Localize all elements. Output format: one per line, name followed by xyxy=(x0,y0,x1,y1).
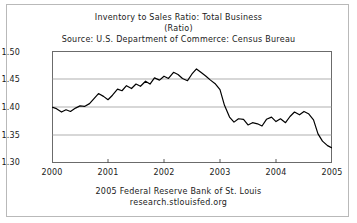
y-tick-label: 1.30 xyxy=(0,158,20,167)
x-tick-label: 2000 xyxy=(35,168,69,177)
y-tick-label: 1.45 xyxy=(0,75,20,84)
x-tick-label: 2003 xyxy=(203,168,237,177)
x-tick-label: 2005 xyxy=(315,168,349,177)
x-tick-label: 2002 xyxy=(147,168,181,177)
chart-source: Source: U.S. Department of Commerce: Cen… xyxy=(7,35,350,44)
footer-url: research.stlouisfed.org xyxy=(7,198,350,207)
series-line xyxy=(52,69,332,148)
chart-canvas xyxy=(52,51,332,163)
x-tick-label: 2001 xyxy=(91,168,125,177)
footer-attribution: 2005 Federal Reserve Bank of St. Louis xyxy=(7,187,350,196)
x-tick-label: 2004 xyxy=(259,168,293,177)
chart-title: Inventory to Sales Ratio: Total Business xyxy=(7,13,350,22)
chart-subtitle: (Ratio) xyxy=(7,24,350,33)
chart-frame: Inventory to Sales Ratio: Total Business… xyxy=(6,4,349,217)
plot-area xyxy=(52,51,332,163)
y-tick-label: 1.40 xyxy=(0,103,20,112)
y-tick-label: 1.35 xyxy=(0,131,20,140)
y-tick-label: 1.50 xyxy=(0,48,20,57)
